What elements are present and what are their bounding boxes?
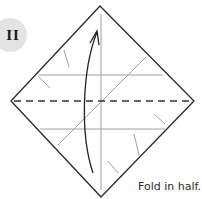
crease-tick bbox=[134, 134, 139, 155]
crease-lines bbox=[38, 14, 165, 190]
crease-tick bbox=[154, 114, 165, 124]
crease-tick bbox=[64, 50, 69, 67]
origami-step-diagram: II Fold in half. bbox=[0, 0, 202, 199]
step-number: II bbox=[6, 27, 20, 44]
fold-arrow-icon bbox=[84, 32, 97, 173]
fold-diagram bbox=[0, 0, 202, 199]
crease-tick bbox=[38, 76, 50, 88]
crease-tick bbox=[108, 161, 118, 173]
step-caption: Fold in half. bbox=[138, 180, 201, 193]
